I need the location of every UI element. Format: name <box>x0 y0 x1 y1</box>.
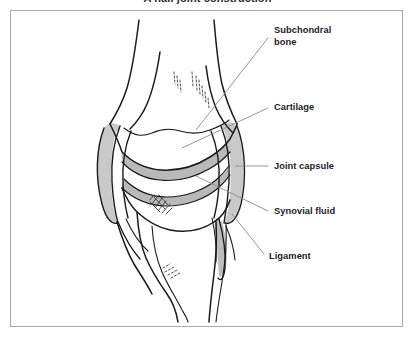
callout-label-joint-capsule: Joint capsule <box>274 161 334 173</box>
femur-shading-right <box>192 72 209 108</box>
femur-left-inner-contour <box>130 52 160 129</box>
femur-shading-left <box>174 72 181 92</box>
leader-line-subchondral-bone <box>196 38 268 130</box>
callout-label-subchondral-bone: Subchondral bone <box>274 25 331 48</box>
leader-line-ligament <box>232 214 264 254</box>
femur-right-contour <box>214 20 237 124</box>
tibia-left-contour <box>137 212 178 322</box>
femur-left-contour <box>110 20 139 124</box>
figure-page: A nail joint construction <box>0 0 415 339</box>
knee-joint-illustration <box>0 0 415 339</box>
tibia-shading <box>163 264 180 278</box>
callout-label-synovial-fluid: Synovial fluid <box>274 206 335 218</box>
callout-label-cartilage: Cartilage <box>274 102 314 114</box>
ligament-left-secondary <box>126 219 148 251</box>
ligament-right-lower <box>226 226 235 260</box>
callout-label-ligament: Ligament <box>269 251 311 263</box>
